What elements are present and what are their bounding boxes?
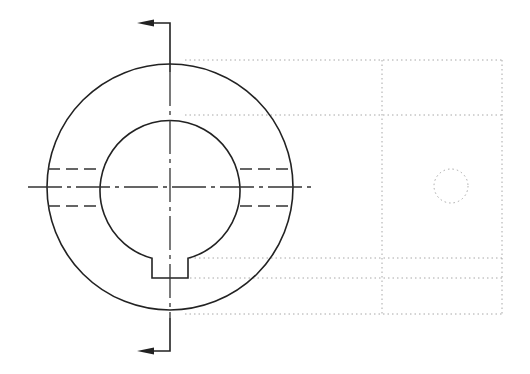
drawing-canvas [0,0,530,374]
side-view-hole-circle [434,169,468,203]
arrow-left-bottom-icon [137,348,154,355]
cutting-plane-bottom-leg [150,318,170,351]
arrow-left-top-icon [137,20,154,27]
